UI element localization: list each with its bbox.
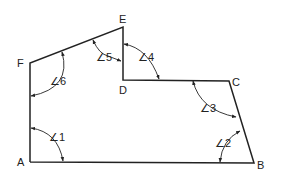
vertex-label-a: A bbox=[17, 156, 25, 168]
vertex-label-d: D bbox=[119, 84, 127, 96]
angle-2-label: ∠2 bbox=[215, 137, 231, 149]
angle-5-label: ∠5 bbox=[96, 51, 112, 63]
angle-1-label: ∠1 bbox=[49, 131, 65, 143]
vertex-label-e: E bbox=[119, 13, 126, 25]
vertex-label-f: F bbox=[17, 57, 24, 69]
angle-6-arc bbox=[31, 52, 64, 96]
angle-4-label: ∠4 bbox=[138, 51, 154, 63]
angle-6-label: ∠6 bbox=[50, 75, 66, 87]
vertex-label-b: B bbox=[257, 159, 264, 171]
polygon-diagram: A B C D E F ∠1 ∠2 ∠3 ∠4 ∠5 ∠6 bbox=[0, 0, 283, 181]
angle-3-label: ∠3 bbox=[200, 102, 216, 114]
vertex-label-c: C bbox=[232, 76, 240, 88]
